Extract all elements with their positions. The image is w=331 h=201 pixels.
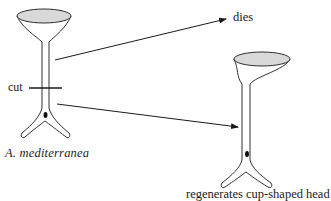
alga-left [17,9,71,138]
alga-right [221,52,290,188]
arrow-to-dies [55,19,226,60]
dies-label: dies [233,11,253,24]
regenerates-label: regenerates cup-shaped head [186,188,330,201]
cut-label: cut [8,81,23,93]
diagram-svg [0,0,331,201]
cup-head-left [17,9,71,23]
cup-cone-right [221,59,290,188]
cup-cone-left [17,16,71,138]
diagram-canvas: cut A. mediterranea dies regenerates cup… [0,0,331,201]
nucleus-right [245,151,249,157]
arrow-to-regenerated [57,104,238,127]
species-label: A. mediterranea [5,147,89,160]
cup-head-right [234,52,290,66]
nucleus-left [44,112,48,118]
